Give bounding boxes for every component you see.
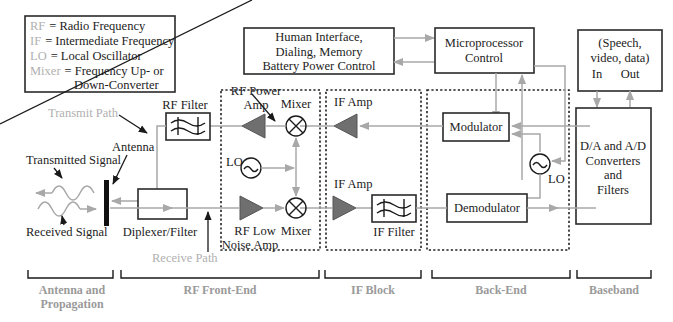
svg-text:Transmitted Signal: Transmitted Signal (26, 153, 122, 167)
section-bracket-backend (432, 270, 570, 278)
backend-lo: LO (530, 154, 565, 186)
svg-text:Mixer: Mixer (281, 97, 312, 111)
svg-text:LO: LO (548, 172, 565, 186)
modulator-block: Modulator (443, 113, 509, 141)
rx-signal-pointer (62, 216, 64, 225)
legend-item-if: IF = Intermediate Frequency (30, 31, 175, 48)
svg-text:Human Interface,: Human Interface, (275, 30, 362, 44)
section-bracket-if (325, 270, 421, 278)
human-interface-block: Human Interface, Dialing, Memory Battery… (244, 28, 394, 74)
legend-box: RF = Radio Frequency IF = Intermediate F… (25, 16, 175, 92)
section-label-antenna: Antenna and (39, 283, 106, 297)
svg-text:RF Filter: RF Filter (162, 98, 208, 112)
section-label-if-block: IF Block (351, 283, 395, 297)
mp-to-lo-arrow (534, 66, 565, 161)
legend-item-rf: RF = Radio Frequency (30, 16, 146, 33)
svg-text:Dialing, Memory: Dialing, Memory (276, 45, 364, 59)
svg-text:IF Filter: IF Filter (373, 225, 415, 239)
section-bracket-baseband (577, 270, 651, 278)
section-label-propagation: Propagation (40, 297, 103, 311)
section-bracket-antenna (28, 270, 113, 278)
svg-text:and: and (604, 168, 623, 182)
section-label-rf-front-end: RF Front-End (183, 283, 256, 297)
svg-text:(Speech,: (Speech, (598, 36, 641, 50)
rf-power-amp-icon (242, 114, 265, 138)
svg-text:Microprocessor: Microprocessor (445, 36, 524, 50)
rf-transceiver-diagram: RF = Radio Frequency IF = Intermediate F… (0, 0, 673, 322)
svg-text:D/A and A/D: D/A and A/D (580, 139, 646, 153)
tx-wave-icon (52, 186, 94, 200)
svg-text:Modulator: Modulator (450, 120, 504, 134)
legend-item-lo: LO = Local Oscillator (30, 46, 143, 63)
rf-lna-icon (240, 196, 263, 220)
section-label-back-end: Back-End (475, 283, 527, 297)
transmit-path-pointer (119, 115, 147, 133)
if-filter-block: IF Filter (372, 195, 416, 239)
svg-text:Battery Power Control: Battery Power Control (262, 59, 376, 73)
svg-text:RF Low: RF Low (234, 224, 275, 238)
section-label-baseband: Baseband (589, 283, 639, 297)
svg-text:IF Amp: IF Amp (334, 95, 373, 109)
baseband-in-label: In (592, 67, 603, 81)
antenna-icon (104, 180, 109, 226)
svg-text:Filters: Filters (597, 183, 629, 197)
svg-text:Noise Amp: Noise Amp (222, 238, 279, 252)
demodulator-block: Demodulator (447, 194, 527, 222)
microprocessor-control-block: Microprocessor Control (435, 28, 534, 73)
transmit-path-label: Transmit Path (48, 106, 119, 120)
svg-text:RF Power: RF Power (231, 84, 282, 98)
svg-text:Antenna: Antenna (112, 140, 155, 154)
svg-text:Diplexer/Filter: Diplexer/Filter (123, 225, 198, 239)
lo-to-mod-arrow (512, 134, 540, 152)
if-amp-rx-icon (333, 196, 356, 220)
baseband-io-block: (Speech, video, data) In Out (578, 30, 662, 91)
if-amp-tx-icon (334, 114, 357, 138)
svg-text:IF Amp: IF Amp (334, 177, 373, 191)
legend-item-mixer-cont: Down-Converter (74, 78, 160, 92)
sine-icon (244, 167, 258, 172)
rf-filter-block: RF Filter (162, 98, 210, 140)
svg-text:Demodulator: Demodulator (454, 201, 521, 215)
diplexer-block: Diplexer/Filter (123, 189, 198, 239)
svg-text:Mixer: Mixer (281, 224, 312, 238)
tx-signal-pointer (54, 168, 62, 178)
svg-text:LO: LO (226, 155, 243, 169)
svg-text:Received Signal: Received Signal (26, 225, 108, 239)
svg-text:Converters: Converters (586, 154, 641, 168)
receive-path-label: Receive Path (152, 251, 218, 265)
sine-icon (533, 163, 547, 168)
baseband-out-label: Out (621, 67, 640, 81)
svg-text:Control: Control (465, 51, 504, 65)
svg-text:video, data): video, data) (590, 51, 649, 65)
front-lo: LO (226, 155, 261, 178)
section-bracket-rf (121, 270, 319, 278)
rx-wave-icon (38, 202, 80, 216)
